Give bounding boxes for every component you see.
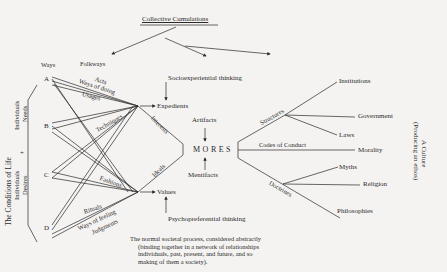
religion-label: Religion: [363, 181, 387, 188]
myths-label: Myths: [339, 164, 357, 171]
caption: The normal societal process, considered …: [130, 235, 340, 265]
point-d: D: [44, 225, 49, 232]
plus-sign: +: [20, 150, 24, 157]
individuals-desires-label-2: Desires: [22, 176, 29, 196]
philosophies-label: Philosophies: [337, 208, 373, 215]
diagram-lines: [0, 0, 447, 272]
mores-label: MORES: [193, 146, 233, 154]
expedients-label: Expedients: [157, 103, 188, 110]
point-b: B: [44, 123, 49, 130]
ways-label: Ways: [41, 62, 55, 69]
title-collective-cumulations: Collective Cumulations: [142, 16, 208, 23]
point-c: C: [44, 172, 49, 179]
government-label: Government: [358, 113, 393, 120]
values-label: Values: [157, 189, 176, 196]
caption-line-1: The normal societal process, considered …: [130, 235, 340, 243]
caption-line-3: individuals, past, present, and future, …: [130, 250, 340, 258]
culture-label: A Culture: [420, 140, 427, 167]
conditions-of-life-label: The Conditions of Life: [5, 157, 13, 226]
individuals-desires-label-1: Individuals: [14, 171, 21, 200]
laws-label: Laws: [339, 132, 354, 139]
socioexperiential-label: Socioexperiential thinking: [168, 75, 242, 82]
individuals-needs-label-1: Individuals: [14, 101, 21, 130]
morality-label: Morality: [358, 147, 383, 154]
producing-ethos-label: (Producing an ethos): [412, 122, 419, 180]
psychopreferential-label: Psychopreferential thinking: [168, 216, 246, 223]
point-a: A: [44, 76, 49, 83]
caption-line-2: (binding together in a network of relati…: [130, 243, 340, 251]
individuals-needs-label-2: Needs: [22, 106, 29, 122]
artifacts-label: Artifacts: [192, 117, 217, 124]
caption-line-4: making of them a society).: [130, 258, 340, 266]
folkways-label: Folkways: [80, 61, 105, 68]
institutions-label: Institutions: [339, 78, 371, 85]
codes-of-conduct-label: Codes of Conduct: [259, 142, 306, 149]
mentifacts-label: Mentifacts: [188, 172, 218, 179]
